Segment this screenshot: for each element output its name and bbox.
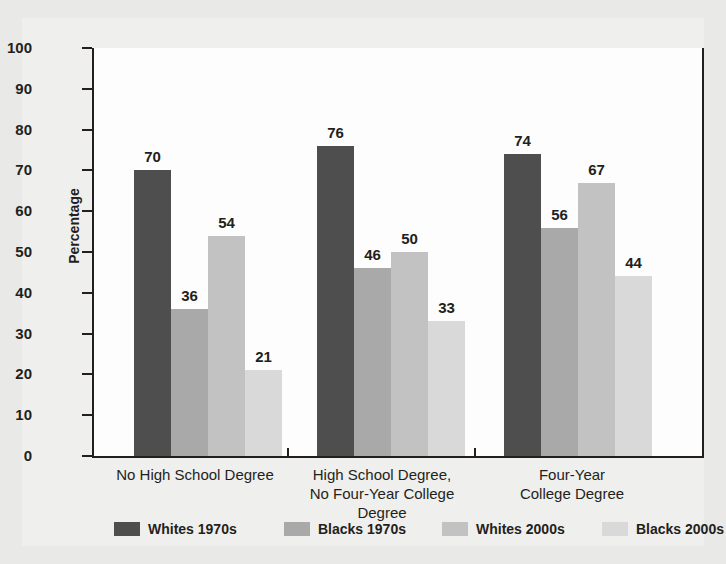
y-axis-tick [82,414,92,416]
bar-column[interactable]: 54 [208,48,245,456]
y-axis-tick [82,47,92,49]
bars-layer: 703654217646503374566744 [92,48,704,456]
y-axis-tick-label: 100 [0,40,32,55]
bar[interactable] [578,183,615,456]
y-axis-tick [82,333,92,335]
bar-value-label: 54 [208,215,245,230]
bar-column[interactable]: 70 [134,48,171,456]
y-axis-tick [82,292,92,294]
y-axis-tick-label: 10 [0,407,32,422]
y-axis-tick-label: 20 [0,366,32,381]
bar-column[interactable]: 44 [615,48,652,456]
bar-group: 74566744 [504,48,652,456]
bar[interactable] [504,154,541,456]
bar-group: 70365421 [134,48,282,456]
chart-legend: Whites 1970sBlacks 1970sWhites 2000sBlac… [92,518,704,544]
y-axis-tick-label: 70 [0,162,32,177]
x-axis-category-label: High School Degree, No Four-Year College… [284,466,480,522]
chart-figure: 0102030405060708090100 Percentage 703654… [0,0,726,564]
bar[interactable] [615,276,652,456]
bar-column[interactable]: 74 [504,48,541,456]
y-axis-tick-label: 50 [0,244,32,259]
bar[interactable] [245,370,282,456]
y-axis-tick-label: 60 [0,203,32,218]
bar-value-label: 74 [504,133,541,148]
bar-column[interactable]: 46 [354,48,391,456]
legend-label: Whites 2000s [476,521,565,537]
bar[interactable] [317,146,354,456]
y-axis-tick-label: 30 [0,326,32,341]
y-axis-tick [82,251,92,253]
y-axis-title: Percentage [66,166,82,286]
legend-item[interactable]: Whites 1970s [114,518,237,540]
bar-column[interactable]: 76 [317,48,354,456]
bar-group: 76465033 [317,48,465,456]
x-axis-tick [287,448,289,458]
bar-value-label: 70 [134,149,171,164]
bar-value-label: 21 [245,349,282,364]
x-axis-category-label: No High School Degree [100,466,290,485]
bar-value-label: 46 [354,247,391,262]
legend-label: Blacks 1970s [318,521,406,537]
y-axis-tick-label: 90 [0,81,32,96]
legend-swatch-icon [442,522,468,536]
bar-column[interactable]: 67 [578,48,615,456]
bar-column[interactable]: 33 [428,48,465,456]
bar-column[interactable]: 50 [391,48,428,456]
bar[interactable] [354,268,391,456]
y-axis-tick [82,169,92,171]
legend-label: Blacks 2000s [636,521,724,537]
bar-value-label: 67 [578,162,615,177]
legend-item[interactable]: Blacks 2000s [602,518,724,540]
bar-value-label: 36 [171,288,208,303]
y-axis-tick-label: 40 [0,285,32,300]
legend-item[interactable]: Blacks 1970s [284,518,406,540]
chart-card: 0102030405060708090100 Percentage 703654… [22,18,704,546]
bar-value-label: 76 [317,125,354,140]
bar[interactable] [208,236,245,456]
bar-column[interactable]: 21 [245,48,282,456]
y-axis-tick [82,210,92,212]
x-axis-tick [474,448,476,458]
bar[interactable] [171,309,208,456]
bar[interactable] [134,170,171,456]
bar-value-label: 56 [541,207,578,222]
legend-swatch-icon [114,522,140,536]
legend-swatch-icon [284,522,310,536]
y-axis-tick [82,129,92,131]
bar-value-label: 33 [428,300,465,315]
legend-swatch-icon [602,522,628,536]
x-axis-tick [92,448,94,458]
bar-column[interactable]: 56 [541,48,578,456]
x-axis-tick [702,448,704,458]
y-axis-tick [82,373,92,375]
legend-label: Whites 1970s [148,521,237,537]
legend-item[interactable]: Whites 2000s [442,518,565,540]
bar-value-label: 50 [391,231,428,246]
bar-column[interactable]: 36 [171,48,208,456]
y-axis-tick-label: 80 [0,122,32,137]
bar[interactable] [541,228,578,456]
bar-value-label: 44 [615,255,652,270]
y-axis-tick-label: 0 [0,448,32,463]
bar[interactable] [428,321,465,456]
bar[interactable] [391,252,428,456]
x-axis-category-label: Four-Year College Degree [492,466,652,504]
y-axis-tick [82,88,92,90]
y-axis-tick [82,455,92,457]
x-axis-line [92,456,704,458]
